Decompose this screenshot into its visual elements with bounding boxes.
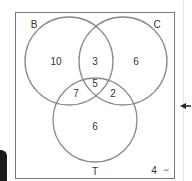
region-b-t: 7 [73,89,79,99]
region-t-only: 6 [92,122,98,132]
universal-set-symbol: ξ [163,169,169,172]
region-b-c: 3 [92,57,98,67]
set-label-b: B [31,20,38,30]
venn-diagram-stage: B C T 10 3 6 5 7 2 6 4 ξ [0,0,192,181]
set-label-c: C [153,20,160,30]
region-c-only: 6 [133,57,139,67]
venn-svg [0,0,192,181]
region-c-t: 2 [110,89,116,99]
set-label-t: T [92,167,98,177]
region-b-only: 10 [50,57,61,67]
arrow-icon [180,103,191,109]
circle-b [25,17,113,105]
region-b-c-t: 5 [92,79,98,89]
circle-t [53,78,137,162]
region-outside: 4 [151,166,157,176]
